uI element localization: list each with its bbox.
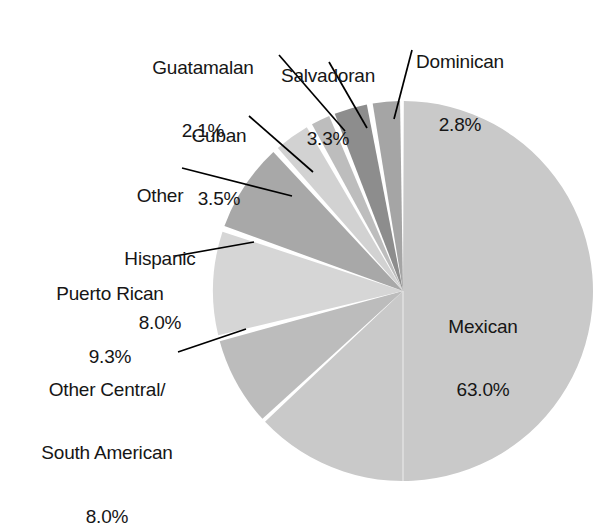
slice-label-puerto-rican-name: Puerto Rican [28,283,192,304]
slice-label-guatamalan-name: Guatamalan [128,57,278,78]
slice-label-dominican-name: Dominican [390,51,530,72]
slice-label-dominican: Dominican 2.8% [390,8,530,178]
slice-label-other-central-south-american: Other Central/ South American 8.0% [6,336,208,527]
slice-label-mexican-name: Mexican [418,316,548,337]
slice-label-other-central-south-american-value: 8.0% [6,506,208,527]
slice-label-other-central-south-american-name-line1: Other Central/ [6,379,208,400]
slice-label-salvadoran-name: Salvadoran [262,65,394,86]
slice-label-salvadoran: Salvadoran 3.3% [262,22,394,192]
slice-label-other-central-south-american-name-line2: South American [6,442,208,463]
slice-label-mexican: Mexican 63.0% [418,273,548,443]
slice-label-other-hispanic-name-line1: Other [94,185,226,206]
slice-label-mexican-value: 63.0% [418,379,548,400]
slice-label-salvadoran-value: 3.3% [262,128,394,149]
slice-label-dominican-value: 2.8% [390,114,530,135]
